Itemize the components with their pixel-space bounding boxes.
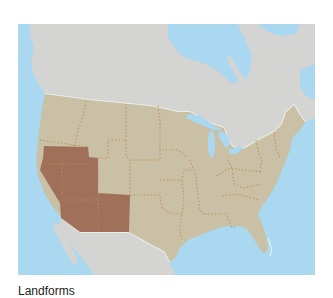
map-caption: Landforms — [18, 285, 75, 297]
map-frame — [18, 24, 315, 275]
north-america-map — [18, 24, 315, 275]
